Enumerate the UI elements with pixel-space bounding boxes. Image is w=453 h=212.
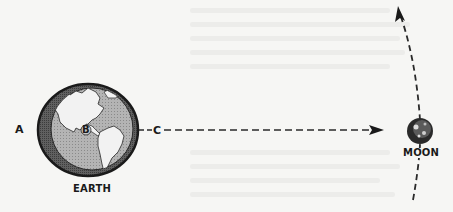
- label-moon: MOON: [403, 148, 439, 158]
- label-point-c: C: [153, 125, 161, 136]
- straight-trajectory-arrow: [139, 125, 384, 135]
- label-point-b: B: [82, 125, 90, 135]
- label-earth: EARTH: [73, 184, 111, 194]
- earth-moon-diagram: [0, 0, 453, 212]
- moon-icon: [407, 118, 433, 144]
- label-point-a: A: [15, 124, 24, 135]
- orbit-trajectory-arrow: [395, 6, 420, 200]
- orbit-arrowhead-icon: [395, 6, 405, 22]
- arrowhead-icon: [369, 125, 384, 135]
